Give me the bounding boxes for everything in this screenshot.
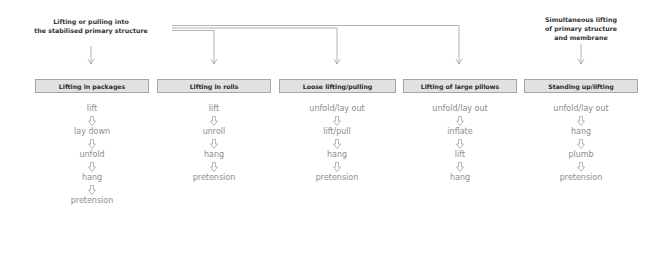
hollow-down-arrow-icon [32,115,152,126]
steps-loose-lifting-pulling: unfold/lay out lift/pull hang pretension [277,103,397,184]
box-lifting-in-rolls: Lifting in rolls [157,79,271,93]
step: lay down [32,126,152,138]
hollow-down-arrow-icon [154,115,274,126]
step: hang [32,172,152,184]
hollow-down-arrow-icon [277,138,397,149]
step: hang [277,149,397,161]
step: hang [521,126,641,138]
step: hang [400,172,520,184]
note-simultaneous-lifting: Simultaneous lifting of primary structur… [530,15,632,42]
step: lift [32,103,152,115]
hollow-down-arrow-icon [521,138,641,149]
step: unfold/lay out [400,103,520,115]
hollow-down-arrow-icon [400,138,520,149]
hollow-down-arrow-icon [521,115,641,126]
hollow-down-arrow-icon [32,161,152,172]
box-loose-lifting-pulling: Loose lifting/pulling [279,79,396,93]
step: inflate [400,126,520,138]
step: hang [154,149,274,161]
step: unfold [32,149,152,161]
hollow-down-arrow-icon [32,184,152,195]
steps-lifting-in-rolls: lift unroll hang pretension [154,103,274,184]
step: pretension [32,195,152,207]
hollow-down-arrow-icon [277,115,397,126]
hollow-down-arrow-icon [400,161,520,172]
box-standing-up-lifting: Standing up/lifting [524,79,638,93]
step: lift [400,149,520,161]
step: lift [154,103,274,115]
step: unfold/lay out [521,103,641,115]
hollow-down-arrow-icon [32,138,152,149]
step: unfold/lay out [277,103,397,115]
steps-lifting-large-pillows: unfold/lay out inflate lift hang [400,103,520,184]
hollow-down-arrow-icon [154,161,274,172]
hollow-down-arrow-icon [521,161,641,172]
hollow-down-arrow-icon [154,138,274,149]
box-lifting-in-packages: Lifting in packages [35,79,149,93]
step: pretension [154,172,274,184]
step: unroll [154,126,274,138]
box-lifting-large-pillows: Lifting of large pillows [403,79,517,93]
step: plumb [521,149,641,161]
steps-lifting-in-packages: lift lay down unfold hang pretension [32,103,152,207]
step: pretension [521,172,641,184]
hollow-down-arrow-icon [277,161,397,172]
steps-standing-up-lifting: unfold/lay out hang plumb pretension [521,103,641,184]
hollow-down-arrow-icon [400,115,520,126]
note-lifting-into-primary-structure: Lifting or pulling into the stabilised p… [20,17,162,35]
step: pretension [277,172,397,184]
step: lift/pull [277,126,397,138]
